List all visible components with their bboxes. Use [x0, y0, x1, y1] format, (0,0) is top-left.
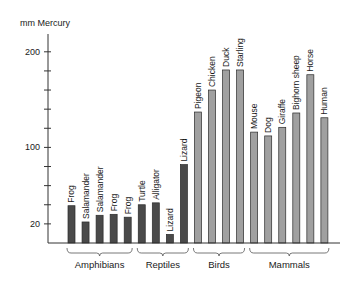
bar-label: Giraffe	[277, 99, 287, 125]
bar	[194, 112, 201, 243]
bar	[307, 75, 314, 243]
bar-label: Frog	[109, 194, 119, 212]
bar	[265, 136, 272, 243]
bar	[321, 118, 328, 243]
group-bracket	[137, 248, 188, 256]
group-brackets: AmphibiansReptilesBirdsMammals	[67, 248, 329, 270]
bar-label: Frog	[123, 196, 133, 214]
y-axis-label: mm Mercury	[20, 18, 70, 28]
group-label: Birds	[208, 259, 230, 270]
bar-label: Human	[319, 87, 329, 115]
bar-label: Lizard	[165, 208, 175, 231]
bar	[180, 165, 187, 243]
bar	[152, 203, 159, 243]
bar	[209, 90, 216, 243]
bar-label: Mouse	[249, 103, 259, 129]
bar-label: Lizard	[179, 138, 189, 161]
y-tick-label: 20	[30, 219, 40, 229]
bar	[68, 206, 75, 243]
bar-label: Bighorn sheep	[291, 55, 301, 110]
group-label: Reptiles	[146, 259, 181, 270]
bar-label: Alligator	[151, 169, 161, 200]
group-bracket	[67, 248, 132, 256]
bar	[237, 70, 244, 243]
group-label: Amphibians	[75, 259, 125, 270]
bars: FrogSalamanderSalamanderFrogFrogTurtleAl…	[67, 38, 330, 243]
bar	[223, 70, 230, 243]
bar	[124, 217, 131, 243]
bar	[110, 214, 117, 243]
bar	[279, 127, 286, 243]
bar-label: Duck	[221, 47, 231, 67]
blood-pressure-bar-chart: mm Mercury 20100200 FrogSalamanderSalama…	[0, 0, 357, 281]
y-tick-label: 100	[25, 142, 40, 152]
bar-label: Pigeon	[193, 82, 203, 109]
y-axis: 20100200	[25, 34, 51, 243]
bar-label: Horse	[305, 49, 315, 72]
bar	[96, 215, 103, 243]
y-tick-label: 200	[25, 47, 40, 57]
bar-label: Salamander	[95, 166, 105, 212]
group-bracket	[250, 248, 329, 256]
bar	[251, 132, 258, 243]
group-bracket	[193, 248, 244, 256]
bar-label: Salamander	[81, 173, 91, 219]
bar-label: Frog	[67, 185, 77, 203]
bar	[293, 113, 300, 243]
bar	[82, 222, 89, 243]
bar	[166, 234, 173, 243]
bar-label: Dog	[263, 117, 273, 133]
bar-label: Starling	[235, 38, 245, 67]
group-label: Mammals	[269, 259, 310, 270]
bar	[138, 205, 145, 243]
bar-label: Chicken	[207, 56, 217, 87]
bar-label: Turtle	[137, 180, 147, 202]
